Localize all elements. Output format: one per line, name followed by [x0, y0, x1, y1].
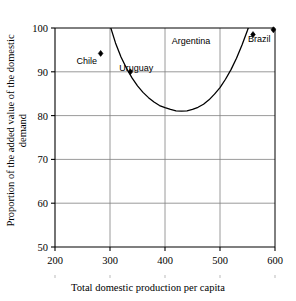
x-tick-label: 200 — [47, 255, 63, 266]
y-tick-label: 80 — [38, 111, 49, 122]
x-tick-label: 600 — [267, 255, 283, 266]
y-tick-label: 100 — [32, 23, 48, 34]
x-tick-labels: 200300400500600 — [47, 255, 283, 266]
chart-container: Proportion of the added value of the dom… — [0, 0, 296, 301]
data-point-label: Argentina — [172, 36, 211, 46]
data-point-label: Uruguay — [119, 63, 154, 73]
x-tick-label: 300 — [102, 255, 118, 266]
y-tick-label: 70 — [38, 154, 49, 165]
y-tick-label: 50 — [38, 242, 49, 253]
x-tick-label: 400 — [157, 255, 173, 266]
data-point-marker — [98, 50, 103, 56]
fitted-curve — [106, 4, 256, 111]
data-point-label: Brazil — [248, 34, 271, 44]
data-point-label: Chile — [76, 56, 97, 66]
chart-plot: 5060708090100200300400500600ChileUruguay… — [0, 0, 296, 301]
x-tick-label: 500 — [212, 255, 228, 266]
y-tick-labels: 5060708090100 — [32, 23, 48, 253]
y-tick-label: 90 — [38, 67, 49, 78]
y-tick-label: 60 — [38, 198, 49, 209]
x-axis-label: Total domestic production per capita — [0, 282, 296, 293]
